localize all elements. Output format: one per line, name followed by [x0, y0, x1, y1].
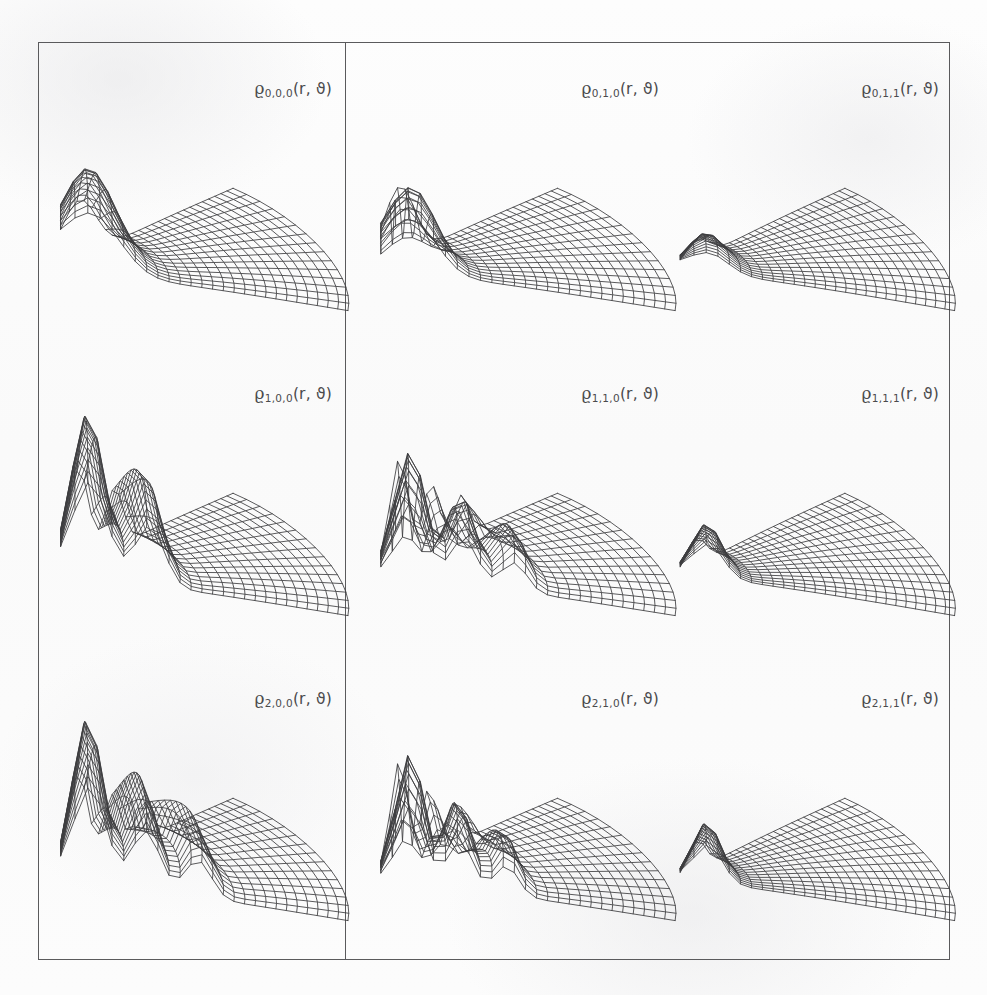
panel-label-symbol: ϱ	[254, 383, 264, 403]
surface-panel-1-0-0: ϱ1,0,0(r, ϑ)	[52, 383, 340, 607]
surface-panel-1-1-1: ϱ1,1,1(r, ϑ)	[672, 383, 947, 607]
mesh-lines	[381, 453, 676, 615]
mesh-lines	[61, 416, 349, 615]
panel-label-symbol: ϱ	[581, 688, 591, 708]
surface-panel-0-1-0: ϱ0,1,0(r, ϑ)	[372, 78, 667, 302]
wireframe-surface	[672, 706, 947, 916]
wireframe-surface	[672, 401, 947, 611]
mesh-lines	[680, 493, 955, 615]
mesh-lines	[381, 756, 676, 921]
mesh-lines	[381, 188, 676, 311]
panel-label-symbol: ϱ	[254, 78, 264, 98]
panel-label-symbol: ϱ	[861, 78, 871, 98]
panel-label-symbol: ϱ	[254, 688, 264, 708]
wireframe-surface	[52, 401, 340, 611]
surface-panel-0-0-0: ϱ0,0,0(r, ϑ)	[52, 78, 340, 302]
mesh-lines	[680, 188, 955, 310]
wireframe-surface	[372, 96, 667, 306]
mesh-lines	[680, 798, 955, 920]
column-divider	[345, 42, 346, 960]
wireframe-surface	[372, 401, 667, 611]
surface-panel-2-1-0: ϱ2,1,0(r, ϑ)	[372, 688, 667, 912]
surface-panel-2-1-1: ϱ2,1,1(r, ϑ)	[672, 688, 947, 912]
wireframe-surface	[52, 96, 340, 306]
surface-panel-0-1-1: ϱ0,1,1(r, ϑ)	[672, 78, 947, 302]
panel-label-symbol: ϱ	[581, 383, 591, 403]
panel-label-symbol: ϱ	[861, 688, 871, 708]
wireframe-surface	[672, 96, 947, 306]
mesh-lines	[61, 169, 349, 311]
panel-label-symbol: ϱ	[861, 383, 871, 403]
figure-page: ϱ0,0,0(r, ϑ)ϱ0,1,0(r, ϑ)ϱ0,1,1(r, ϑ)ϱ1,0…	[0, 0, 987, 995]
panel-label-symbol: ϱ	[581, 78, 591, 98]
wireframe-surface	[52, 706, 340, 916]
wireframe-surface	[372, 706, 667, 916]
mesh-lines	[61, 721, 349, 920]
surface-panel-2-0-0: ϱ2,0,0(r, ϑ)	[52, 688, 340, 912]
surface-panel-1-1-0: ϱ1,1,0(r, ϑ)	[372, 383, 667, 607]
